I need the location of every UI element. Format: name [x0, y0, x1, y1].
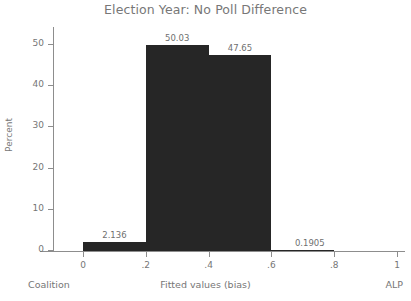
histogram-bar — [83, 242, 146, 251]
bar-value-label: 50.03 — [146, 34, 209, 43]
histogram-bar — [146, 45, 209, 251]
bar-value-label: 47.65 — [209, 44, 272, 53]
axis-caption-center: Fitted values (bias) — [0, 279, 411, 290]
x-axis-tick-mark — [397, 252, 398, 257]
x-axis-tick-mark — [209, 252, 210, 257]
bars-layer: 2.13650.0347.650.1905 — [53, 25, 405, 251]
x-axis-tick-label: 1 — [382, 260, 411, 270]
x-axis-tick-mark — [83, 252, 84, 257]
axis-caption-right: ALP — [385, 279, 403, 290]
histogram-bar — [209, 55, 272, 251]
x-axis-tick-label: 0 — [68, 260, 98, 270]
axis-caption-row: Coalition Fitted values (bias) ALP — [0, 279, 411, 293]
x-axis-tick-mark — [271, 252, 272, 257]
x-axis-tick-label: .8 — [319, 260, 349, 270]
x-axis-tick-mark — [334, 252, 335, 257]
x-axis-tick-label: .4 — [194, 260, 224, 270]
bar-value-label: 2.136 — [83, 231, 146, 240]
histogram-bar — [271, 250, 334, 251]
x-axis-tick-mark — [146, 252, 147, 257]
x-axis-tick-label: .2 — [131, 260, 161, 270]
x-axis-tick-label: .6 — [256, 260, 286, 270]
bar-value-label: 0.1905 — [271, 239, 348, 248]
